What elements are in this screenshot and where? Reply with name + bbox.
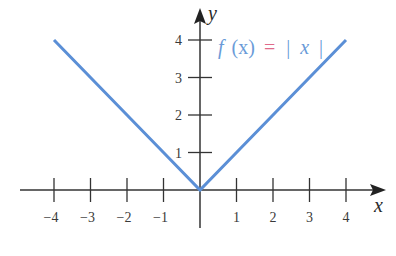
y-tick-label: 1 [175, 146, 182, 161]
y-tick-label: 4 [175, 33, 182, 48]
y-tick-label: 2 [175, 108, 182, 123]
x-tick-label: −3 [80, 210, 95, 225]
x-tick-label: 3 [306, 210, 313, 225]
func-equals: = [264, 36, 275, 58]
y-ticks: 1234 [175, 33, 212, 161]
x-tick-label: −1 [153, 210, 168, 225]
absolute-value-chart: −4−3−2−11234 1234 x y f (x) = | x | [0, 0, 396, 256]
y-axis-label: y [206, 2, 217, 25]
func-bar-right: | [319, 36, 323, 59]
x-tick-label: 4 [343, 210, 350, 225]
function-label: f (x) = | x | [218, 36, 323, 59]
x-axis-label: x [373, 194, 383, 216]
y-tick-label: 3 [175, 71, 182, 86]
x-tick-label: −4 [44, 210, 59, 225]
axes [20, 8, 386, 228]
func-name: f [218, 36, 226, 59]
func-bar-left: | [286, 36, 290, 59]
func-arg: (x) [232, 36, 255, 59]
x-tick-label: −2 [117, 210, 132, 225]
x-tick-label: 2 [270, 210, 277, 225]
func-var: x [299, 36, 309, 58]
x-tick-label: 1 [233, 210, 240, 225]
